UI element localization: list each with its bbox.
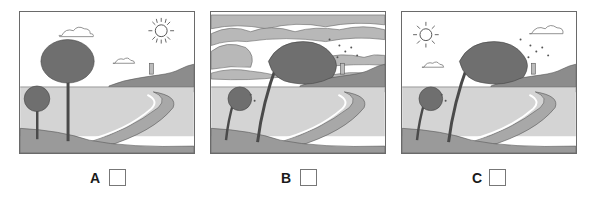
option-c: C [472, 168, 506, 187]
option-checkbox-a[interactable] [109, 169, 126, 186]
option-checkbox-c[interactable] [489, 169, 506, 186]
stormy-scene-illustration [211, 12, 385, 153]
option-label-c: C [472, 171, 482, 185]
option-checkbox-b[interactable] [300, 169, 317, 186]
lighthouse-icon [149, 63, 153, 74]
lighthouse-icon [531, 63, 535, 74]
scene-panel-b [210, 11, 386, 154]
option-label-a: A [90, 171, 100, 185]
option-b: B [281, 168, 317, 187]
option-label-b: B [281, 171, 291, 185]
lighthouse-icon [340, 63, 344, 74]
option-a: A [90, 168, 126, 187]
scene-panel-c [401, 11, 577, 154]
calm-scene-illustration [20, 12, 194, 153]
windy-scene-illustration [402, 12, 576, 153]
scene-panel-a [19, 11, 195, 154]
